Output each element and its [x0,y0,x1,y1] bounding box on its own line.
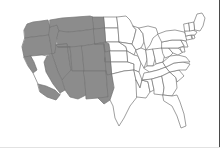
us-choropleth-map-figure [0,0,220,148]
state-eastern-kansas [110,51,128,62]
state-eastern-south-dakota [105,28,119,42]
state-new-mexico [84,71,108,99]
state-western-north-dakota [93,17,105,29]
state-oregon [22,35,52,57]
state-western-south-dakota [94,28,106,44]
state-eastern-north-dakota [104,17,118,28]
figure-right-border [219,0,220,148]
state-colorado [82,44,106,71]
figure-bottom-border [0,147,220,148]
map-canvas [0,0,220,148]
